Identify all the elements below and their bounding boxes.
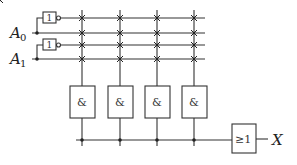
inverter-1-input-wire [37, 18, 43, 33]
bus-junction-1 [80, 138, 84, 142]
input-a1-subscript: 1 [20, 58, 26, 69]
crosspoint-grid [79, 15, 197, 62]
inverter-2-input-wire [37, 45, 43, 59]
bus-junction-2 [118, 138, 122, 142]
bus-junction-3 [155, 138, 159, 142]
output-x-label: X [271, 131, 284, 149]
and-gate-4-label: & [189, 96, 199, 109]
junction-a1 [35, 57, 39, 61]
pla-diagram: 1 1 A 0 A 1 & & & & ≥1 [0, 0, 297, 165]
and-gate-3-label: & [152, 96, 162, 109]
input-a0-subscript: 0 [20, 32, 26, 43]
inverter-1-bubble [57, 16, 61, 20]
and-gate-2-label: & [115, 96, 125, 109]
crosspoints [0, 0, 3, 3]
inverter-2-bubble [57, 43, 61, 47]
inverter-1-label: 1 [47, 13, 53, 23]
or-gate-label: ≥1 [235, 133, 251, 146]
inverter-2-label: 1 [47, 40, 53, 50]
and-gate-1-label: & [77, 96, 87, 109]
junction-a0 [35, 31, 39, 35]
bus-junction-4 [192, 138, 196, 142]
